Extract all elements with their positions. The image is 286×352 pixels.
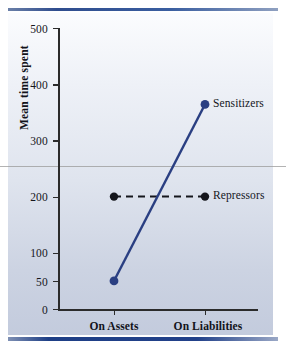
x-tick-label-on-liabilities: On Liabilities (174, 320, 243, 332)
data-point-sensitizers-on-liabilities (201, 100, 210, 109)
y-tick-label-300: 300 (30, 135, 48, 147)
plot-area: 500 400 300 200 100 50 0 On Assets On Li… (58, 28, 258, 311)
y-tick-label-200: 200 (30, 191, 48, 203)
figure-container: Mean time spent 500 400 300 200 100 50 0… (0, 0, 286, 352)
y-axis-label: Mean time spent (18, 45, 30, 130)
data-point-repressors-on-assets (110, 192, 118, 200)
series-label-repressors: Repressors (213, 189, 264, 201)
y-tick-label-400: 400 (30, 79, 48, 91)
bottom-rule (8, 337, 278, 341)
y-tick-label-0: 0 (42, 303, 48, 315)
series-layer (58, 28, 258, 311)
data-point-sensitizers-on-assets (110, 277, 119, 286)
y-tick-label-500: 500 (30, 22, 48, 34)
series-label-sensitizers: Sensitizers (213, 97, 264, 109)
y-tick-label-50: 50 (36, 275, 48, 287)
x-tick-label-on-assets: On Assets (89, 320, 138, 332)
data-point-repressors-on-liabilities (201, 192, 209, 200)
top-rule (8, 8, 278, 11)
series-line-sensitizers (114, 104, 205, 281)
y-tick-label-100: 100 (30, 247, 48, 259)
